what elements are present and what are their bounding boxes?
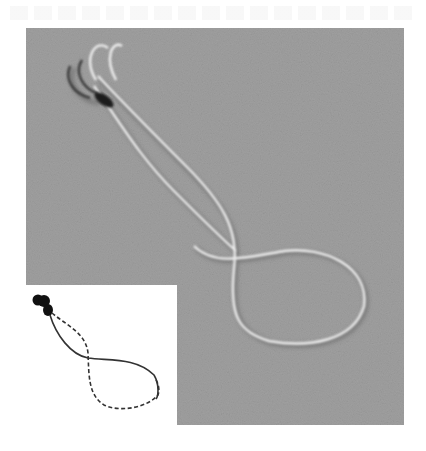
trace-drawing xyxy=(26,285,177,425)
solid-trace xyxy=(50,315,158,399)
traced-cell-body xyxy=(33,295,54,317)
dashed-trace xyxy=(52,313,159,409)
trace-inset xyxy=(26,285,177,425)
bleed-through-text xyxy=(10,6,416,20)
